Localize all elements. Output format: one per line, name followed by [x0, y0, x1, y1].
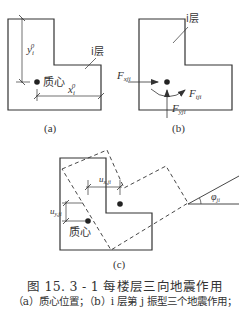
leader-line-b	[173, 27, 188, 43]
panel-b: i层 Fxji Fyji Ftji (b)	[116, 13, 232, 135]
panel-label-a: (a)	[44, 122, 57, 135]
panel-label-c: (c)	[113, 258, 126, 271]
torsion-label: Ftji	[188, 87, 202, 101]
dim-y-label: yi0	[26, 42, 35, 57]
centroid-dot-b	[164, 79, 170, 85]
floor-label-b: i层	[186, 13, 199, 24]
centroid-label-a: 质心	[43, 76, 65, 89]
centroid-dot-a	[34, 79, 40, 85]
dim-x-label: xi0	[67, 82, 76, 97]
disp-x-label: ux,ji	[99, 174, 111, 185]
centroid-dot-displaced	[85, 218, 91, 224]
angle-arc	[200, 198, 202, 204]
panel-label-b: (b)	[172, 122, 185, 135]
leader-line-a	[85, 58, 96, 69]
floor-label-a: i层	[91, 46, 104, 57]
torsion-arrow	[151, 89, 185, 97]
angle-label: φji	[211, 191, 220, 203]
diagram-canvas: yi0 质心 xi0 i层 (a) i层 Fxji Fyji	[0, 0, 250, 312]
figure-caption-subtitle: （a）质心位置；（b）i 层第 j 振型三个地震作用；	[0, 293, 250, 308]
centroid-label-c: 质心	[69, 226, 91, 239]
force-x-label: Fxji	[116, 69, 131, 83]
panel-c: 质心 ux,ji uy,ji φji (c)	[50, 150, 239, 271]
centroid-dot-original	[117, 201, 123, 207]
panel-a: yi0 质心 xi0 i层 (a)	[8, 15, 104, 135]
force-y-label: Fyji	[171, 102, 186, 116]
floor-outline-b	[139, 19, 232, 110]
